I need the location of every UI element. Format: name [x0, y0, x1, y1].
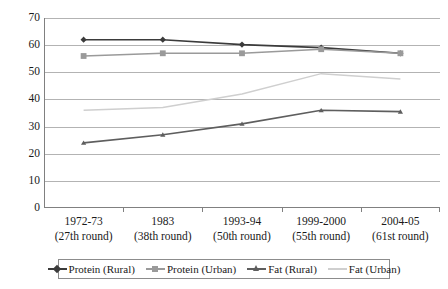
- data-point-marker: [239, 42, 245, 48]
- y-tick-label: 60: [0, 39, 40, 51]
- x-axis-labels: 1972-73(27th round)1983(38th round)1993-…: [44, 214, 440, 250]
- y-tick-label: 0: [0, 202, 40, 214]
- x-tick: [361, 208, 362, 212]
- x-tick: [282, 208, 283, 212]
- x-tick: [123, 208, 124, 212]
- data-point-marker: [398, 50, 404, 56]
- x-category-label: 1972-73(27th round): [55, 214, 113, 244]
- legend-label: Fat (Rural): [268, 264, 317, 275]
- y-axis-labels: 010203040506070: [0, 18, 40, 208]
- series-fat-rural: [81, 108, 403, 145]
- x-category-round: (61st round): [372, 229, 429, 244]
- legend-label: Fat (Urban): [349, 264, 401, 275]
- legend-item[interactable]: Protein (Urban): [146, 264, 236, 275]
- x-category-round: (55th round): [292, 229, 350, 244]
- legend-marker-icon: [247, 264, 266, 274]
- x-tick: [439, 208, 440, 212]
- x-category-label: 1983(38th round): [134, 214, 192, 244]
- data-point-marker: [81, 53, 87, 59]
- legend-marker-icon: [146, 264, 165, 274]
- x-category-round: (27th round): [55, 229, 113, 244]
- legend-item[interactable]: Fat (Rural): [247, 264, 317, 275]
- x-category-label: 1999-2000(55th round): [292, 214, 350, 244]
- series-protein-urban: [81, 46, 404, 59]
- series-layer: [44, 18, 440, 208]
- legend-label: Protein (Urban): [167, 264, 236, 275]
- series-line: [84, 74, 401, 111]
- series-line: [84, 110, 401, 143]
- x-category-period: 1999-2000: [296, 215, 346, 227]
- data-point-marker: [318, 46, 324, 52]
- y-tick-label: 20: [0, 148, 40, 160]
- data-point-marker: [160, 37, 166, 43]
- x-category-round: (50th round): [213, 229, 271, 244]
- x-category-period: 1983: [151, 215, 174, 227]
- y-tick-label: 40: [0, 94, 40, 106]
- x-tick: [202, 208, 203, 212]
- x-category-period: 1993-94: [223, 215, 261, 227]
- legend-item[interactable]: Fat (Urban): [328, 264, 401, 275]
- y-tick-label: 30: [0, 121, 40, 133]
- x-category-period: 2004-05: [381, 215, 419, 227]
- x-category-label: 1993-94(50th round): [213, 214, 271, 244]
- x-category-period: 1972-73: [64, 215, 102, 227]
- y-tick-label: 50: [0, 67, 40, 79]
- legend-item[interactable]: Protein (Rural): [48, 264, 135, 275]
- y-tick-label: 10: [0, 175, 40, 187]
- data-point-marker: [81, 37, 87, 43]
- x-axis-ticks: [44, 208, 440, 213]
- x-category-round: (38th round): [134, 229, 192, 244]
- legend-marker-icon: [48, 264, 67, 274]
- legend-marker-icon: [328, 264, 347, 274]
- x-category-label: 2004-05(61st round): [372, 214, 429, 244]
- series-fat-urban: [84, 74, 401, 111]
- legend-label: Protein (Rural): [69, 264, 135, 275]
- chart-legend: Protein (Rural)Protein (Urban)Fat (Rural…: [58, 259, 390, 279]
- data-point-marker: [239, 50, 245, 56]
- data-point-marker: [160, 50, 166, 56]
- y-tick-label: 70: [0, 12, 40, 24]
- line-chart: 010203040506070 1972-73(27th round)1983(…: [0, 0, 448, 289]
